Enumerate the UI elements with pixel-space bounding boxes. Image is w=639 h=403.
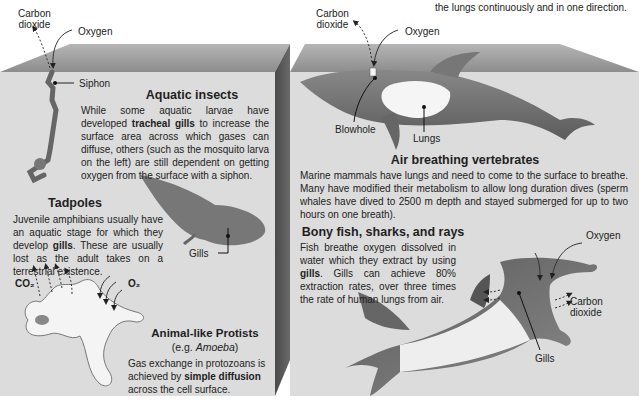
blowhole-label: Blowhole [335, 124, 376, 135]
air-breathing-text: Marine mammals have lungs and need to co… [300, 169, 628, 221]
siphon-label: Siphon [79, 78, 110, 89]
aquatic-insects-title: Aquatic insects [112, 88, 272, 102]
protists-title: Animal-like Protists [140, 327, 270, 339]
shark-oxygen-label: Oxygen [586, 230, 620, 241]
shark-carbon-dioxide-label: Carbon dioxide [570, 296, 603, 318]
top-caption: the lungs continuously and in one direct… [435, 2, 627, 13]
tadpoles-title: Tadpoles [30, 196, 120, 210]
tadpoles-text: Juvenile amphibians usually have an aqua… [13, 213, 163, 278]
tadpole-gills-label: Gills [189, 248, 208, 259]
carbon-dioxide-label: Carbon dioxide [18, 8, 51, 30]
oxygen-label: Oxygen [78, 26, 112, 37]
fish-text: Fish breathe oxygen dissolved in water w… [300, 241, 456, 306]
protists-text: Gas exchange in protozoans is achieved b… [128, 357, 270, 396]
protists-subtitle: (e.g. Amoeba) [140, 342, 270, 353]
o2-label: O₂ [128, 278, 140, 289]
shark-gills-label: Gills [535, 353, 554, 364]
co2-label: CO₂ [15, 278, 34, 289]
whale-oxygen-label: Oxygen [405, 26, 439, 37]
aquatic-insects-text: While some aquatic larvae have developed… [81, 104, 269, 182]
fish-title: Bony fish, sharks, and rays [300, 225, 466, 239]
whale-carbon-dioxide-label: Carbon dioxide [316, 8, 349, 30]
air-breathing-title: Air breathing vertebrates [300, 153, 630, 167]
lungs-label: Lungs [413, 133, 440, 144]
